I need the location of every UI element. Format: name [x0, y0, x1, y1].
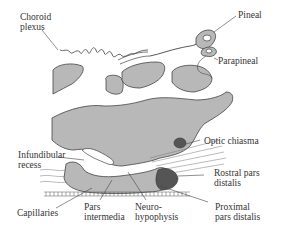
choroid-plexus-folds-2 — [118, 52, 150, 64]
diagram-drawing — [0, 0, 283, 230]
label-optic-chiasma: Optic chiasma — [204, 136, 259, 146]
choroid-plexus-folds — [60, 48, 148, 57]
left-lobe-shape — [53, 64, 83, 94]
small-lobe-shape — [106, 75, 124, 94]
right-lobe-shape — [172, 65, 212, 92]
label-pineal: Pineal — [238, 10, 262, 20]
label-proximal-pars-distalis: Proximal pars distalis — [215, 202, 260, 222]
label-pars-intermedia: Pars intermedia — [84, 202, 125, 222]
label-capillaries: Capillaries — [17, 208, 58, 218]
label-infundibular-recess: Infundibular recess — [18, 150, 66, 170]
optic-chiasma-shape — [174, 138, 186, 148]
middle-lobe-shape — [122, 62, 165, 88]
rostral-pars-distalis-shape — [156, 168, 178, 190]
main-brain-mass-shape — [52, 92, 233, 166]
brain-pituitary-diagram: Choroid plexus Pineal Parapineal Optic c… — [0, 0, 283, 230]
parapineal-lumen — [206, 49, 212, 53]
label-rostral-pars-distalis: Rostral pars distalis — [214, 168, 260, 188]
pineal-stalk-line — [150, 44, 196, 56]
label-choroid-plexus: Choroid plexus — [20, 12, 51, 32]
label-parapineal: Parapineal — [218, 56, 258, 66]
pineal-lumen — [203, 35, 211, 41]
label-neurohypophysis: Neuro- hypophysis — [135, 202, 178, 222]
